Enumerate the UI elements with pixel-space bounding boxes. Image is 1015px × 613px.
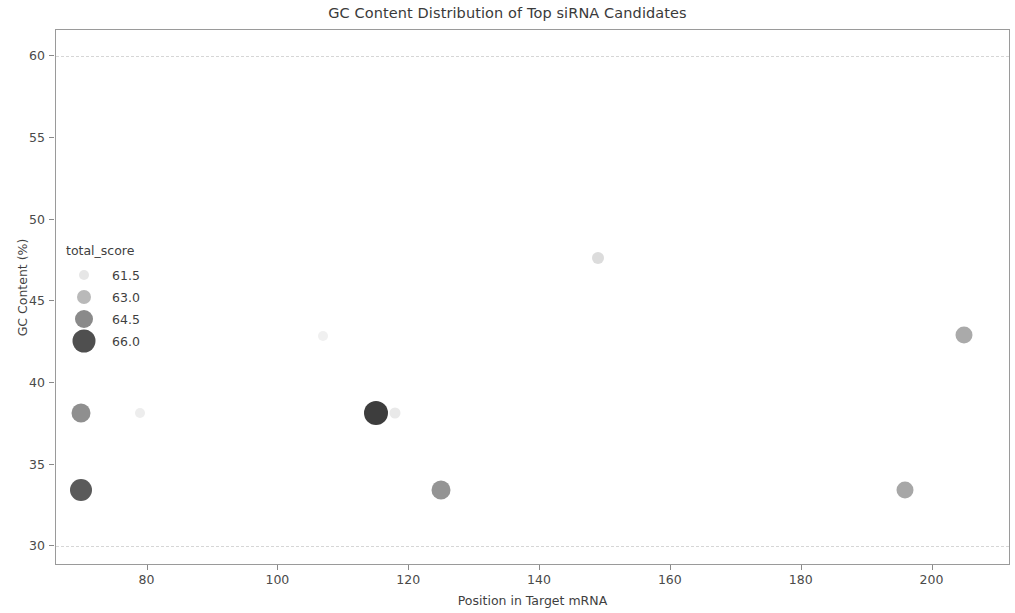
x-axis-tick-label: 160 [640,572,700,587]
y-axis-title: GC Content (%) [15,178,30,398]
y-axis-tick-mark [49,219,54,220]
scatter-point [592,252,604,264]
gridline [56,546,1009,547]
x-axis-tick-mark [801,565,802,570]
legend-label: 63.0 [112,290,140,305]
y-axis-tick-mark [49,382,54,383]
legend-label: 61.5 [112,268,140,283]
chart-page: GC Content Distribution of Top siRNA Can… [0,0,1015,613]
scatter-point [431,480,450,499]
scatter-point [390,408,401,419]
x-axis-tick-mark [408,565,409,570]
x-axis-tick-mark [932,565,933,570]
y-axis-tick-mark [49,55,54,56]
y-axis-tick-mark [49,137,54,138]
x-axis-tick-label: 100 [247,572,307,587]
y-axis-tick-label: 55 [5,129,45,144]
legend-swatch [75,310,93,328]
scatter-point [364,401,388,425]
legend-label: 64.5 [112,312,140,327]
legend-entry: 63.0 [62,286,172,308]
legend-swatch [79,270,89,280]
legend-entry: 64.5 [62,308,172,330]
x-axis-tick-label: 180 [771,572,831,587]
scatter-point [318,331,328,341]
y-axis-tick-mark [49,545,54,546]
scatter-point [956,326,973,343]
x-axis-tick-mark [277,565,278,570]
scatter-point [897,481,914,498]
x-axis-tick-label: 120 [378,572,438,587]
x-axis-title: Position in Target mRNA [55,593,1010,608]
legend: total_score 61.563.064.566.0 [62,243,172,352]
gridline [56,56,1009,57]
y-axis-tick-label: 30 [5,538,45,553]
scatter-point [135,408,145,418]
y-axis-tick-mark [49,464,54,465]
x-axis-tick-label: 80 [117,572,177,587]
x-axis-tick-label: 200 [902,572,962,587]
scatter-point [70,479,92,501]
x-axis-tick-mark [539,565,540,570]
page-title: GC Content Distribution of Top siRNA Can… [0,5,1015,21]
legend-label: 66.0 [112,334,140,349]
y-axis-tick-label: 35 [5,456,45,471]
plot-area [55,29,1010,565]
x-axis-tick-mark [147,565,148,570]
legend-swatch [77,290,91,304]
x-axis-tick-label: 140 [509,572,569,587]
scatter-point [72,404,91,423]
legend-entries: 61.563.064.566.0 [62,264,172,352]
x-axis-tick-mark [670,565,671,570]
y-axis-tick-mark [49,300,54,301]
legend-title: total_score [62,243,172,258]
y-axis-tick-label: 60 [5,48,45,63]
legend-entry: 66.0 [62,330,172,352]
legend-entry: 61.5 [62,264,172,286]
legend-swatch [73,330,96,353]
